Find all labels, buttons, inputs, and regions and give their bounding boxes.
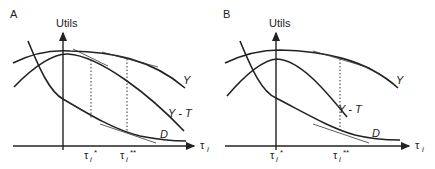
svg-text:i: i	[276, 155, 278, 164]
panel-a-curve-y-label: Y	[183, 74, 191, 86]
panel-b-tangent	[313, 124, 369, 143]
panel-b-curve-d	[240, 41, 400, 140]
panel-a: A Utils τ i Y Y - T D τ i * τ	[10, 8, 209, 164]
panel-b-tick-tau-double-star: τ i **	[333, 148, 349, 164]
svg-text:τ: τ	[200, 139, 205, 151]
panel-a-tick-tau-double-star: τ i **	[120, 148, 136, 164]
panel-a-curve-y-minus-t-label: Y - T	[168, 107, 193, 119]
svg-text:i: i	[339, 155, 341, 164]
panel-b-tick-tau-star: τ i *	[270, 148, 283, 164]
panel-a-tangent	[100, 124, 156, 143]
panel-a-label: A	[10, 8, 18, 20]
panel-a-x-axis-label: τ i	[200, 139, 209, 154]
panel-b-curve-y-minus-t-label: Y - T	[338, 103, 363, 115]
svg-text:τ: τ	[84, 149, 89, 161]
panel-a-tangent	[102, 52, 158, 67]
panel-b-label: B	[223, 8, 230, 20]
panel-b-curve-y-label: Y	[396, 74, 404, 86]
svg-text:τ: τ	[415, 139, 420, 151]
panel-a-curve-d-label: D	[160, 128, 168, 140]
svg-text:τ: τ	[120, 149, 125, 161]
svg-text:i: i	[126, 155, 128, 164]
panel-a-curve-y	[13, 51, 185, 88]
svg-text:**: **	[130, 148, 136, 157]
diagram-canvas: A Utils τ i Y Y - T D τ i * τ	[0, 0, 435, 169]
svg-text:τ: τ	[270, 149, 275, 161]
svg-text:i: i	[422, 145, 424, 154]
svg-text:i: i	[207, 145, 209, 154]
panel-b-y-axis-label: Utils	[269, 17, 291, 29]
panel-a-y-axis-label: Utils	[56, 17, 78, 29]
svg-text:*: *	[94, 148, 97, 157]
panel-b-curve-d-label: D	[372, 127, 380, 139]
panel-b: B Utils τ i Y Y - T D τ i * τ i **	[223, 8, 424, 164]
panel-a-tangent	[63, 99, 82, 110]
svg-text:i: i	[90, 155, 92, 164]
panel-a-tick-tau-star: τ i *	[84, 148, 97, 164]
svg-text:τ: τ	[333, 149, 338, 161]
panel-b-curve-y	[225, 50, 398, 88]
svg-text:**: **	[343, 148, 349, 157]
panel-b-x-axis-label: τ i	[415, 139, 424, 154]
panel-b-curve-y-minus-t	[227, 59, 347, 117]
svg-text:*: *	[280, 148, 283, 157]
panel-b-tangent	[313, 51, 370, 68]
